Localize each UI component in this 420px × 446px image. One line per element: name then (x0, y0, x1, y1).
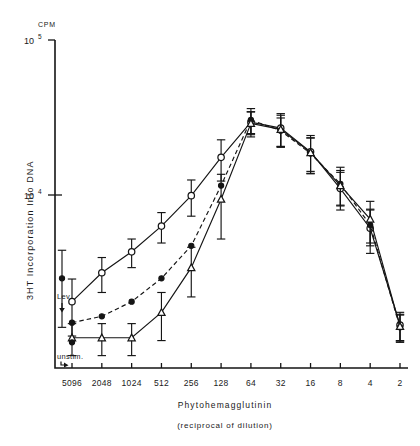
x-tick-label-32: 32 (276, 378, 286, 388)
marker-lev (59, 276, 64, 281)
datapoint-open-circle-series-256 (188, 192, 194, 198)
datapoint-open-circle-series-1024 (128, 249, 134, 255)
markers-filled-circle-series (69, 117, 402, 330)
datapoint-triangle-series-128 (217, 196, 224, 203)
y-tick-label-1e4-exp: 4 (38, 188, 42, 195)
annotation-unstim: unstim. (57, 340, 83, 368)
datapoint-open-circle-series-128 (218, 154, 224, 160)
data-series-layer (68, 109, 404, 356)
x-tick-label-2048: 2048 (92, 378, 112, 388)
errorbars-triangle-series (68, 112, 404, 356)
x-axis-title: Phytohemagglutinin (178, 400, 272, 410)
x-tick-label-128: 128 (214, 378, 229, 388)
datapoint-filled-circle-series-512 (159, 276, 164, 281)
x-tick-label-256: 256 (184, 378, 199, 388)
series-open-circle-series (68, 112, 404, 341)
lev-datapoint (58, 250, 66, 327)
chart-svg: 10 5 10 4 CPM 3HT Incorporation Into DNA… (0, 0, 420, 446)
x-tick-label-64: 64 (246, 378, 256, 388)
unstim-datapoint (69, 340, 74, 345)
x-tick-label-16: 16 (306, 378, 316, 388)
datapoint-filled-circle-series-2048 (99, 314, 104, 319)
datapoint-triangle-series-512 (158, 309, 165, 316)
x-tick-label-2: 2 (397, 378, 402, 388)
x-axis-subtitle: (reciprocal of dilution) (177, 421, 273, 430)
annotation-lev: Lev. (57, 250, 72, 327)
datapoint-open-circle-series-512 (158, 223, 164, 229)
lev-label: Lev. (57, 292, 72, 301)
line-filled-circle-series (72, 120, 400, 327)
marker-unstim (69, 340, 74, 345)
datapoint-open-circle-series-2048 (99, 270, 105, 276)
datapoint-filled-circle-series-1024 (129, 299, 134, 304)
x-tick-label-8: 8 (338, 378, 343, 388)
chart-figure: 10 5 10 4 CPM 3HT Incorporation Into DNA… (0, 0, 420, 446)
y-axis-title: 3HT Incorporation Into DNA (25, 161, 35, 301)
line-triangle-series (72, 123, 400, 337)
y-tick-label-1e5-base: 10 (24, 36, 34, 46)
x-tick-label-5096: 5096 (62, 378, 82, 388)
y-axis-unit-label: CPM (38, 21, 56, 28)
y-tick-label-1e5-exp: 5 (38, 33, 42, 40)
x-tick-label-512: 512 (154, 378, 169, 388)
series-triangle-series (68, 112, 404, 356)
unstim-label: unstim. (57, 352, 83, 361)
markers-open-circle-series (69, 119, 403, 328)
errorbars-open-circle-series (68, 112, 404, 341)
errorbars-filled-circle-series (247, 109, 404, 343)
datapoint-triangle-series-256 (188, 264, 195, 271)
unstim-arrow-head (64, 363, 69, 368)
series-filled-circle-series (69, 109, 404, 343)
x-axis-tick-labels: 509620481024512256128643216842 (62, 378, 403, 388)
x-tick-label-1024: 1024 (122, 378, 142, 388)
x-tick-label-4: 4 (368, 378, 373, 388)
